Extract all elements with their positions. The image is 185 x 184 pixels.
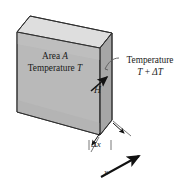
thickness-label: Δx [91,139,101,149]
area-symbol: A [62,51,68,61]
heat-flow-label: H [94,85,101,96]
area-label: Area A [16,51,94,62]
dimension-extension-right [113,121,131,136]
area-text: Area [42,51,62,61]
right-temperature-line2: T + ΔT [117,67,183,78]
right-temperature-plus: + [142,67,152,77]
right-temperature-line1: Temperature [117,55,183,66]
slab-side-face [100,33,112,135]
dimension-arrow-right [113,123,124,133]
front-face-label-group: Area A Temperature T [16,51,94,73]
heat-conduction-slab-figure: Area A Temperature T Temperature T + ΔT … [0,0,185,184]
temperature-symbol: T [77,63,82,73]
x-axis-label: x [104,168,108,178]
temperature-label: Temperature T [16,63,94,74]
temperature-text: Temperature [28,63,77,73]
right-temperature-delta: ΔT [152,67,163,77]
right-temperature-label-group: Temperature T + ΔT [117,55,183,78]
thickness-symbol: x [97,139,101,149]
slab-vector-graphic [0,0,185,184]
